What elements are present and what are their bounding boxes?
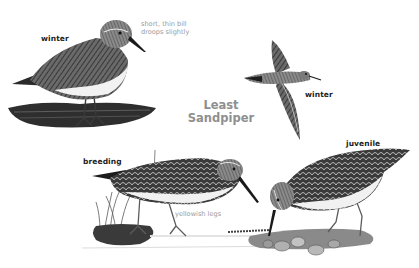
note-bill: short, thin bill droops slightly	[141, 20, 189, 36]
juvenile-bird	[228, 148, 410, 255]
note-bill-line1: short, thin bill	[141, 20, 189, 28]
field-guide-plate: Least Sandpiper winter short, thin bill …	[0, 0, 419, 268]
winter-standing-bird	[8, 20, 156, 128]
species-title-line2: Sandpiper	[183, 112, 259, 125]
label-breeding: breeding	[83, 157, 122, 166]
label-winter-flying: winter	[305, 90, 333, 99]
label-juvenile: juvenile	[346, 139, 380, 148]
note-bill-line2: droops slightly	[141, 28, 189, 36]
label-winter-standing: winter	[41, 34, 69, 43]
species-title: Least Sandpiper	[183, 99, 259, 125]
note-legs: yellowish legs	[175, 210, 221, 218]
